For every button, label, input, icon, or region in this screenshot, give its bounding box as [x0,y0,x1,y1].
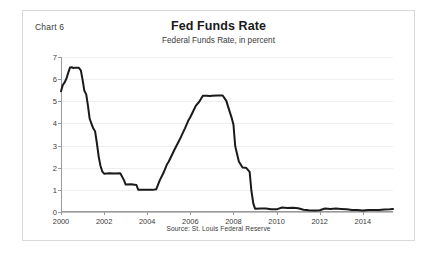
y-tick-label-2: 2 [53,163,57,172]
x-tick-mark-2004 [147,212,148,215]
chart-title-block: Fed Funds Rate Federal Funds Rate, in pe… [23,19,414,47]
y-tick-label-4: 4 [53,119,57,128]
x-tick-mark-2002 [104,212,105,215]
y-tick-label-0: 0 [53,208,57,217]
x-tick-mark-2012 [320,212,321,215]
x-tick-mark-2010 [277,212,278,215]
y-tick-label-3: 3 [53,141,57,150]
y-tick-label-6: 6 [53,75,57,84]
y-tick-label-1: 1 [53,185,57,194]
gridline-y-0 [61,212,393,213]
x-tick-mark-2006 [190,212,191,215]
chart-figure: Chart 6 Fed Funds Rate Federal Funds Rat… [22,10,415,241]
y-tick-label-5: 5 [53,97,57,106]
chart-subtitle: Federal Funds Rate, in percent [23,35,414,47]
chart-title: Fed Funds Rate [23,19,414,34]
x-tick-mark-2000 [61,212,62,215]
x-tick-mark-2014 [363,212,364,215]
y-tick-label-7: 7 [53,53,57,62]
x-tick-mark-2008 [233,212,234,215]
series-line-federal-funds-rate [61,57,393,212]
source-note: Source: St. Louis Federal Reserve [23,225,414,232]
plot-area: 01234567 2000200220042006200820102012201… [61,57,393,212]
